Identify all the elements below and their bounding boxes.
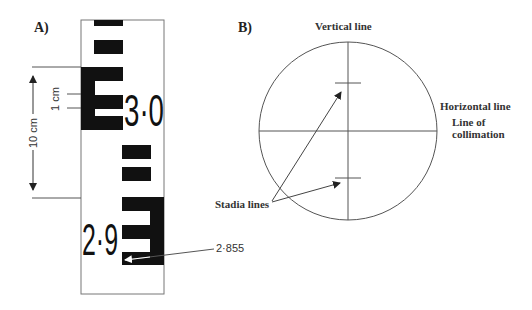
panel-b-label: B) (238, 20, 252, 36)
staff-number-2-9: 2·9 (82, 215, 118, 264)
staff-bar (94, 20, 123, 26)
staff-bar (122, 167, 151, 181)
staff-e-block-3-0 (81, 67, 123, 130)
dimension-10cm-label: 10 cm (27, 118, 39, 148)
dimension-1cm-label: 1 cm (49, 87, 61, 111)
staff-bar (94, 40, 123, 54)
stadia-lines-label: Stadia lines (215, 198, 270, 210)
collimation-label-line2: collimation (452, 128, 505, 140)
horizontal-line-label: Horizontal line (440, 100, 511, 112)
staff-e-block-2-9 (122, 197, 164, 265)
surveying-diagram: A) 3·0 2·9 10 cm (0, 0, 532, 310)
staff-number-3-0: 3·0 (124, 86, 164, 135)
panel-b: B) Vertical line Stadia lines Horizontal… (215, 20, 511, 220)
panel-a: A) 3·0 2·9 10 cm (27, 20, 244, 294)
collimation-label-line1: Line of (452, 116, 486, 128)
stadia-arrow-lower (272, 183, 340, 202)
reading-label: 2·855 (216, 242, 244, 254)
vertical-line-label: Vertical line (315, 20, 372, 32)
dimension-10cm: 10 cm (27, 67, 81, 198)
panel-a-label: A) (34, 20, 49, 36)
dimension-1cm: 1 cm (49, 87, 81, 111)
stadia-arrow-upper (272, 92, 341, 201)
staff-bar (122, 145, 151, 159)
